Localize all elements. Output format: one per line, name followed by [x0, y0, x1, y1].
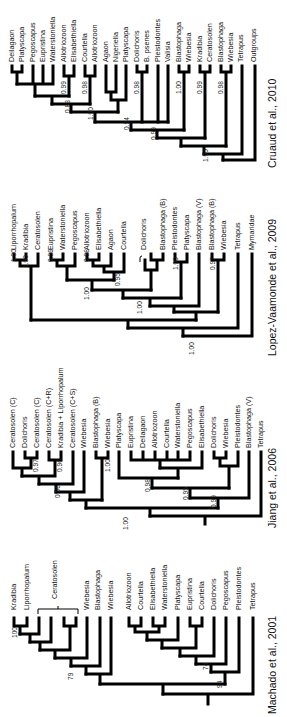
- svg-text:74: 74: [202, 662, 209, 670]
- leaf-label: Wiebesia: [221, 418, 230, 448]
- tree-machado-2001: Kradibia Liporrhopalum Ceratosolen Wiebe…: [9, 560, 278, 714]
- tree-branches: [13, 452, 261, 524]
- tree-branches: [14, 618, 253, 704]
- leaf-label: Wiebesia: [219, 220, 228, 250]
- leaf-labels: Kradibia Liporrhopalum Ceratosolen Wiebe…: [9, 560, 257, 610]
- svg-text:1.00: 1.00: [136, 301, 143, 314]
- leaf-label: Dolichoris: [20, 416, 29, 448]
- leaf-label: Eupristina: [46, 218, 55, 250]
- leaf-label: Deilagaon: [138, 416, 147, 448]
- svg-text:0.98: 0.98: [81, 81, 88, 94]
- leaf-labels: Deilagaon Platyscapa Pegoscapus Eupristi…: [7, 17, 258, 62]
- leaf-label: Nigeriella: [111, 32, 120, 62]
- leaf-label: Pleistodontes: [170, 206, 179, 250]
- svg-text:0.98: 0.98: [133, 81, 140, 94]
- tree-branches: [12, 66, 255, 160]
- leaf-label: Waterstoniella: [160, 565, 169, 610]
- leaf-label: Platyscapa: [173, 575, 182, 610]
- leaf-label: Wiebesia: [103, 418, 112, 448]
- svg-text:1.00: 1.00: [10, 249, 17, 262]
- svg-text:1.00: 1.00: [172, 257, 179, 270]
- leaf-label: Agaon: [106, 229, 115, 250]
- leaf-label: Pleistodontes: [233, 404, 242, 448]
- leaf-label: Allotriozoon: [82, 212, 91, 250]
- phylogeny-figure: Deilagaon Platyscapa Pegoscapus Eupristi…: [0, 0, 287, 717]
- svg-text:0.83: 0.83: [64, 100, 71, 113]
- svg-text:0.99: 0.99: [47, 249, 54, 262]
- leaf-label: Pleistodontes: [153, 18, 162, 62]
- leaf-label: Kradibia: [21, 224, 30, 250]
- tree-jiang-2006: Ceratosolen (C) Dolichoris Ceratosolen (…: [8, 367, 278, 530]
- leaf-label: Courtella: [197, 581, 206, 610]
- leaf-label: Eupristina: [126, 416, 135, 448]
- leaf-label: Allotriozoon: [59, 24, 68, 62]
- svg-text:79: 79: [67, 672, 74, 680]
- tree-branches: [14, 254, 252, 336]
- leaf-label: Elisabethiella: [197, 406, 206, 448]
- leaf-label: Wiebesia: [184, 32, 193, 62]
- leaf-label: Tetrapus: [248, 582, 257, 610]
- leaf-label: Wiebesia: [82, 580, 91, 610]
- leaf-labels: Liporrhopalum Kradibia Ceratosolen Eupri…: [9, 198, 256, 250]
- leaf-label: Courtella: [119, 221, 128, 250]
- leaf-label: Platyscapa: [182, 215, 191, 250]
- svg-text:0.99: 0.99: [210, 495, 217, 508]
- svg-text:0.96: 0.96: [56, 459, 63, 472]
- leaf-label: Dolichoris: [132, 30, 141, 62]
- svg-text:0.98: 0.98: [83, 249, 90, 262]
- svg-text:0.97: 0.97: [209, 257, 216, 270]
- svg-text:0.99: 0.99: [196, 81, 203, 94]
- leaf-label: Pegoscapus: [70, 210, 79, 250]
- ceratosolen-bracket: [38, 606, 78, 614]
- leaf-label: Liporrhopalum: [9, 204, 18, 250]
- leaf-label: Elisabethiella: [94, 208, 103, 250]
- leaf-label: Waterstoniella: [173, 403, 182, 448]
- svg-text:0.94: 0.94: [123, 117, 130, 130]
- svg-text:1.00: 1.00: [175, 81, 182, 94]
- leaf-label: Wiebesia: [226, 32, 235, 62]
- leaf-label: B. psenes: [142, 30, 151, 62]
- leaf-label: Eupristina: [185, 578, 194, 610]
- leaf-label: Kradibia: [9, 584, 18, 610]
- leaf-label: Tetrapus: [256, 420, 265, 448]
- svg-text:0.99: 0.99: [150, 127, 157, 140]
- leaf-label: Tetrapus: [236, 34, 245, 62]
- svg-text:1.00: 1.00: [122, 517, 129, 530]
- leaf-label: Wiebesia: [106, 580, 115, 610]
- leaf-label: Waterstoniella: [48, 17, 57, 62]
- panel-caption: Jiang et al., 2006: [266, 448, 278, 528]
- leaf-label: Courtella: [162, 419, 171, 448]
- leaf-label: Kradibia: [195, 36, 204, 62]
- svg-text:1.00: 1.00: [104, 459, 111, 472]
- leaf-label: Agaon: [101, 41, 110, 62]
- leaf-label: Eupristina: [38, 30, 47, 62]
- leaf-label: Valisia: [163, 41, 172, 62]
- leaf-label: Liporrhopalum: [22, 564, 31, 610]
- leaf-label: Courtella: [136, 581, 145, 610]
- leaf-label: Dolichoris: [139, 218, 148, 250]
- panel-caption: Machado et al., 2001: [266, 616, 278, 714]
- leaf-label: Ceratosolen: [205, 23, 214, 62]
- svg-text:0.95: 0.95: [114, 273, 121, 286]
- svg-text:0.98: 0.98: [144, 479, 151, 492]
- leaf-label: Ceratosolen: [33, 211, 42, 250]
- svg-text:100: 100: [11, 627, 18, 638]
- svg-text:1.00: 1.00: [22, 255, 29, 268]
- leaf-label: Pegoscapus: [28, 22, 37, 62]
- ceratosolen-bracket-label: Ceratosolen: [50, 560, 59, 599]
- svg-text:0.96: 0.96: [54, 485, 61, 498]
- leaf-label: Tetrapus: [233, 222, 242, 250]
- panel-caption: Cruaud et al., 2010: [266, 79, 278, 168]
- leaf-label: Platyscapa: [17, 27, 26, 62]
- leaf-label: Outgroups: [249, 28, 258, 62]
- svg-text:1.00: 1.00: [87, 107, 94, 120]
- svg-text:0.95: 0.95: [182, 487, 189, 500]
- leaf-label: Blastophaga (V): [244, 396, 253, 448]
- leaf-label: Mymaridae: [247, 214, 256, 250]
- svg-text:1.00: 1.00: [202, 149, 209, 162]
- leaf-label: Courtella: [80, 33, 89, 62]
- leaf-label: Ceratosolen (C): [32, 397, 41, 448]
- leaf-label: Pegoscapus: [221, 570, 230, 610]
- leaf-label: Blastophaga: [174, 22, 183, 62]
- svg-text:94: 94: [216, 680, 223, 688]
